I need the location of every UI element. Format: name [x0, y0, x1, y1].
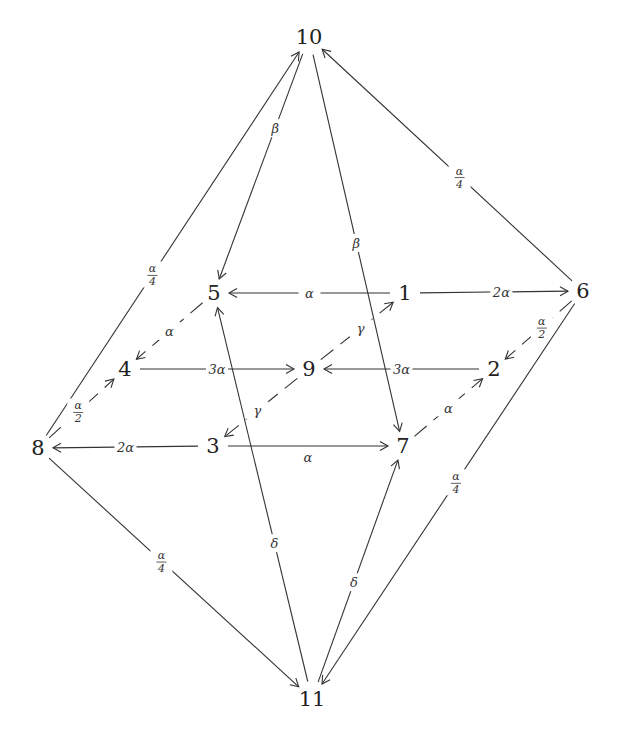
edge-3-to-7: α [228, 442, 388, 466]
edge-label: γ [357, 321, 365, 336]
edge-8-to-4: α2 [49, 379, 114, 438]
edge-label: β [270, 121, 279, 136]
edge-label: γ [253, 403, 261, 418]
edge-8-to-11: α4 [49, 458, 299, 687]
edge-label: δ [270, 536, 278, 551]
edge-label-denominator: 2 [537, 328, 545, 341]
edge-9-to-1: γ [321, 302, 393, 359]
node-9: 9 [302, 357, 315, 381]
node-1: 1 [398, 281, 411, 305]
node-10: 10 [296, 25, 323, 49]
edge-label-numerator: α [456, 165, 464, 178]
edge-10-to-5: β [218, 54, 303, 279]
node-6: 6 [576, 279, 589, 303]
edge-label: 3α [208, 362, 225, 377]
edge-1-to-6: 2α [420, 283, 568, 301]
edge-label-numerator: α [75, 399, 83, 412]
edge-label-denominator: 4 [451, 483, 459, 496]
node-7: 7 [396, 434, 409, 458]
node-4: 4 [118, 357, 131, 381]
edge-6-to-2: α2 [505, 301, 571, 359]
node-2: 2 [487, 357, 500, 381]
edge-label-denominator: 4 [455, 178, 463, 191]
edge-label: α [444, 401, 453, 416]
edge-7-to-2: α [414, 379, 482, 437]
edge-label-numerator: α [158, 549, 166, 562]
graph-diagram: ββα4α4α2ααα23α3αγγα22αααδδα4α4 123456789… [0, 0, 618, 753]
edge-label-denominator: 2 [74, 412, 82, 425]
edge-label: α [304, 450, 313, 465]
edge-label-numerator: α [149, 262, 157, 275]
edge-label: 2α [492, 285, 510, 300]
edge-label-numerator: α [452, 470, 460, 483]
edge-label: δ [350, 575, 358, 590]
node-5: 5 [207, 281, 220, 305]
edge-label: α [305, 286, 314, 301]
node-3: 3 [206, 434, 219, 458]
edge-11-to-7: δ [318, 460, 399, 682]
node-11: 11 [299, 687, 326, 711]
edge-9-to-3: γ [225, 378, 298, 436]
edge-label-numerator: α [538, 315, 546, 328]
edge-label: 3α [393, 362, 410, 377]
nodes-layer: 1234567891011 [31, 25, 589, 711]
edge-2-to-9: 3α [324, 360, 479, 378]
edge-8-to-10: α4 [46, 52, 299, 435]
edge-label-denominator: 4 [157, 562, 165, 575]
edge-5-to-4: α [136, 303, 202, 360]
edge-label-denominator: 4 [148, 275, 156, 288]
edge-4-to-9: 3α [140, 360, 294, 378]
node-8: 8 [31, 436, 44, 460]
edge-6-to-11: α4 [322, 303, 575, 684]
edge-label: 2α [116, 440, 134, 455]
edge-label: β [352, 236, 361, 251]
edge-11-to-5: δ [215, 308, 308, 682]
edge-label: α [165, 324, 174, 339]
edge-3-to-8: 2α [53, 438, 198, 456]
